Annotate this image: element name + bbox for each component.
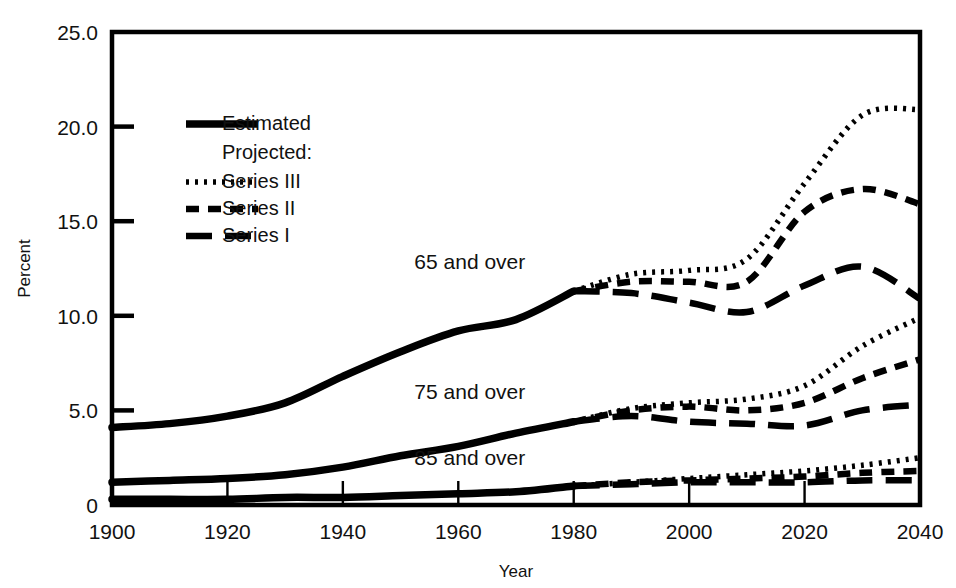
- x-axis-tick-label: 1900: [89, 520, 136, 543]
- legend-label: Series II: [222, 197, 295, 219]
- legend-label: Series I: [222, 224, 290, 246]
- x-axis-title: Year: [499, 562, 534, 581]
- y-axis-tick-label: 25.0: [57, 21, 98, 44]
- x-axis-tick-label: 1980: [550, 520, 597, 543]
- x-axis-tick-label: 1940: [319, 520, 366, 543]
- x-axis-tick-label: 2000: [666, 520, 713, 543]
- x-axis-tick-label: 2020: [781, 520, 828, 543]
- series-annotation-label: 85 and over: [414, 446, 525, 469]
- x-axis-tick-label: 1960: [435, 520, 482, 543]
- chart-container: 05.010.015.020.025.019001920194019601980…: [0, 0, 956, 588]
- y-axis-tick-label: 20.0: [57, 116, 98, 139]
- legend-label: Estimated: [222, 112, 311, 134]
- series-annotation-label: 75 and over: [414, 380, 525, 403]
- y-axis-tick-label: 15.0: [57, 210, 98, 233]
- legend-label: Projected:: [222, 141, 312, 163]
- x-axis-tick-label: 1920: [204, 520, 251, 543]
- series-annotation-label: 65 and over: [414, 250, 525, 273]
- y-axis-tick-label: 5.0: [69, 399, 98, 422]
- legend-projected-header: Projected:: [222, 141, 312, 163]
- x-axis-tick-label: 2040: [897, 520, 944, 543]
- y-axis-tick-label: 10.0: [57, 305, 98, 328]
- y-axis-title: Percent: [15, 239, 34, 298]
- y-axis-tick-label: 0: [86, 494, 98, 517]
- population-percent-line-chart: 05.010.015.020.025.019001920194019601980…: [0, 0, 956, 588]
- legend-label: Series III: [222, 170, 301, 192]
